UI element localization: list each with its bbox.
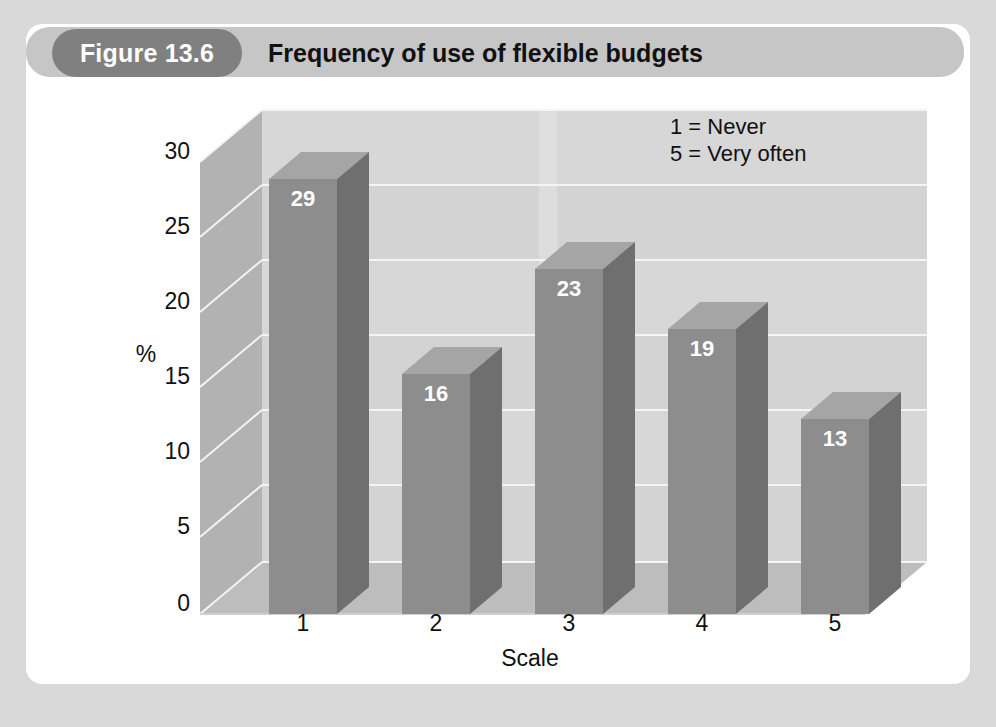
figure-number-pill: Figure 13.6 (52, 29, 242, 77)
legend-line-1: 1 = Never (670, 114, 766, 140)
figure-title: Frequency of use of flexible budgets (268, 29, 703, 77)
bar-value-label-4: 19 (668, 336, 736, 362)
x-tick-label-3: 3 (539, 610, 599, 637)
figure-number-label: Figure 13.6 (52, 29, 242, 77)
y-tick-label-5: 5 (126, 513, 190, 540)
chart-3d-column: 30 25 20 15 10 5 0 % 1 2 3 4 5 Scale 1 =… (40, 92, 960, 672)
bar-value-label-1: 29 (269, 186, 337, 212)
bar-side-4 (736, 302, 768, 614)
bar-front-4 (668, 329, 736, 614)
bar-side-5 (869, 392, 901, 614)
x-tick-label-1: 1 (273, 610, 333, 637)
bar-front-2 (402, 374, 470, 614)
bar-front-1 (269, 179, 337, 614)
legend-line-2: 5 = Very often (670, 141, 806, 167)
x-axis-title: Scale (470, 645, 590, 672)
bar-value-label-5: 13 (801, 426, 869, 452)
x-tick-label-5: 5 (805, 610, 865, 637)
bar-group-1[interactable] (269, 152, 369, 614)
bar-side-1 (337, 152, 369, 614)
bar-side-2 (470, 347, 502, 614)
y-tick-label-25: 25 (126, 213, 190, 240)
bar-side-3 (603, 242, 635, 614)
x-tick-label-4: 4 (672, 610, 732, 637)
y-tick-label-20: 20 (126, 288, 190, 315)
y-tick-label-0: 0 (126, 590, 190, 617)
x-tick-label-2: 2 (406, 610, 466, 637)
bar-value-label-2: 16 (402, 381, 470, 407)
page-background: Figure 13.6 Frequency of use of flexible… (0, 0, 996, 727)
y-tick-label-10: 10 (126, 438, 190, 465)
bar-value-label-3: 23 (535, 276, 603, 302)
y-tick-label-30: 30 (126, 138, 190, 165)
y-axis-title: % (126, 341, 166, 368)
bar-front-3 (535, 269, 603, 614)
